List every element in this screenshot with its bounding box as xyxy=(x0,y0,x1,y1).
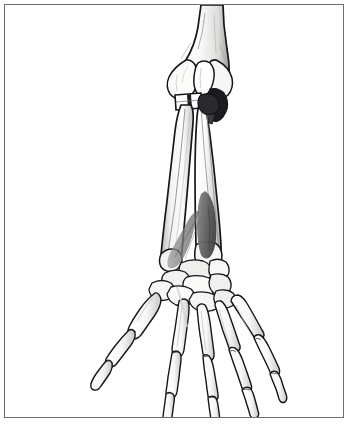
ring-proximal-phalanx xyxy=(229,347,252,392)
index-proximal-phalanx xyxy=(166,351,181,398)
middle-middle-phalanx xyxy=(208,396,220,417)
thumb-phalanges xyxy=(91,329,135,390)
humerus-bone xyxy=(167,5,232,103)
middle-proximal-phalanx xyxy=(203,355,218,401)
middle-finger-phalanges xyxy=(203,355,220,417)
metacarpal-2-index xyxy=(172,299,189,357)
figure-root: Anatomical illustration of right forearm… xyxy=(0,0,350,424)
index-middle-phalanx xyxy=(163,393,174,418)
thumb-distal-phalanx xyxy=(91,360,112,390)
ring-finger-phalanges xyxy=(229,347,259,417)
little-proximal-phalanx xyxy=(254,335,280,377)
ring-middle-phalanx xyxy=(242,387,259,417)
anatomical-illustration: Anatomical illustration of right forearm… xyxy=(5,5,343,417)
metacarpal-3-middle xyxy=(197,304,214,361)
little-finger-phalanges xyxy=(254,335,287,403)
skeleton-drawing-svg: Anatomical illustration of right forearm… xyxy=(5,5,343,417)
index-finger-phalanges xyxy=(163,351,181,417)
radial-head xyxy=(198,94,219,115)
little-middle-phalanx xyxy=(270,371,287,402)
